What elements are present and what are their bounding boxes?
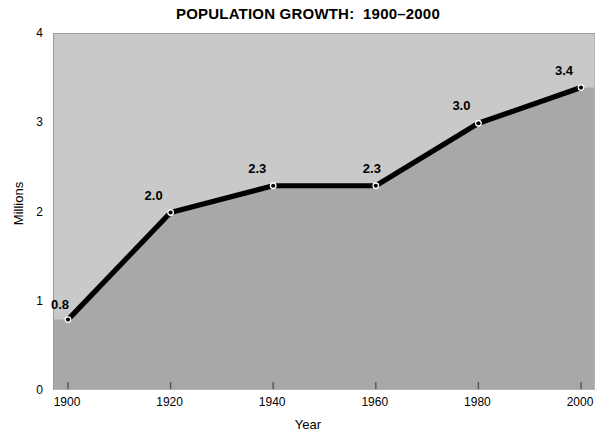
x-tick-label-1960: 1960 xyxy=(345,396,405,408)
area-fill xyxy=(54,88,595,390)
x-axis-title: Year xyxy=(0,417,616,432)
chart-title: POPULATION GROWTH: 1900–2000 xyxy=(0,5,616,22)
data-point-marker-2000 xyxy=(579,85,583,89)
y-tick-label-3: 3 xyxy=(3,116,43,128)
x-tick-label-1980: 1980 xyxy=(447,396,507,408)
data-point-marker-1940 xyxy=(271,184,275,188)
data-point-marker-1960 xyxy=(374,184,378,188)
y-tick-label-4: 4 xyxy=(3,27,43,39)
x-tick-label-2000: 2000 xyxy=(550,396,610,408)
data-point-marker-1980 xyxy=(476,121,480,125)
area-fill-group xyxy=(54,88,595,390)
data-point-marker-1900 xyxy=(66,318,70,322)
point-label-1960: 2.3 xyxy=(363,162,381,175)
x-tick-label-1940: 1940 xyxy=(242,396,302,408)
population-growth-chart: POPULATION GROWTH: 1900–2000 01234 19001… xyxy=(0,0,616,444)
y-tick-label-1: 1 xyxy=(3,295,43,307)
y-axis-title: Millions xyxy=(11,164,26,244)
point-label-1920: 2.0 xyxy=(145,189,163,202)
point-label-2000: 3.4 xyxy=(555,64,573,77)
plot-svg xyxy=(54,34,595,390)
y-tick-label-0: 0 xyxy=(3,384,43,396)
x-tick-label-1900: 1900 xyxy=(37,396,97,408)
x-tick-label-1920: 1920 xyxy=(140,396,200,408)
point-label-1900: 0.8 xyxy=(51,298,69,311)
data-point-marker-1920 xyxy=(169,210,173,214)
plot-area xyxy=(53,33,595,390)
point-label-1940: 2.3 xyxy=(248,162,266,175)
point-label-1980: 3.0 xyxy=(452,99,470,112)
